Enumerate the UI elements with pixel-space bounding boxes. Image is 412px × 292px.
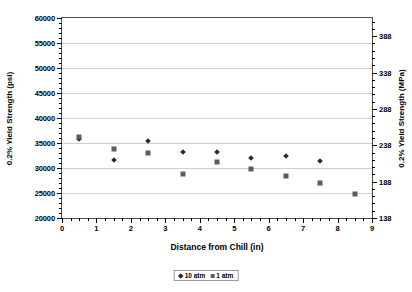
y-axis-minor-tick-left [59,23,62,24]
y-axis-tick-left [57,193,62,194]
x-axis-tick [303,218,304,223]
y-axis-minor-tick-right [372,65,375,66]
gridline [62,193,372,194]
y-axis-tick-right [372,73,377,74]
x-axis-minor-tick [208,218,209,221]
y-axis-minor-tick-right [372,138,375,139]
diamond-marker-icon [178,273,184,279]
y-axis-minor-tick-left [59,188,62,189]
gridline [62,118,372,119]
square-marker-icon [210,274,214,278]
chart-root: 0.2% Yield Strength (psi) 0.2% Yield Str… [0,0,412,292]
y-axis-minor-tick-left [59,88,62,89]
y-axis-minor-tick-right [372,131,375,132]
legend-label-1: 1 atm [216,272,233,279]
y-axis-minor-tick-right [372,153,375,154]
y-axis-tick-label-left: 60000 [35,14,55,23]
x-axis-tick-label: 7 [301,224,305,233]
y-axis-minor-tick-right [372,43,375,44]
x-axis-tick-label: 5 [232,224,236,233]
y-axis-minor-tick-left [59,48,62,49]
y-axis-minor-tick-right [372,211,375,212]
y-axis-tick-left [57,143,62,144]
y-axis-minor-tick-left [59,138,62,139]
y-axis-tick-label-left: 40000 [35,114,55,123]
x-axis-minor-tick [183,218,184,221]
y-axis-minor-tick-left [59,203,62,204]
data-point [249,155,255,161]
y-axis-tick-right [372,36,377,37]
legend-label-0: 10 atm [185,272,206,279]
x-axis-tick [200,218,201,223]
y-axis-minor-tick-right [372,102,375,103]
chart-legend: 10 atm 1 atm [174,270,239,281]
data-point [249,166,254,171]
gridline [62,43,372,44]
y-axis-tick-right [372,145,377,146]
y-axis-minor-tick-right [372,167,375,168]
y-axis-minor-tick-left [59,53,62,54]
x-axis-tick-label: 9 [370,224,374,233]
y-axis-minor-tick-left [59,63,62,64]
gridline [62,68,372,69]
gridline [62,168,372,169]
y-axis-minor-tick-right [372,189,375,190]
x-axis-minor-tick [140,218,141,221]
y-axis-minor-tick-left [59,183,62,184]
x-axis-minor-tick [329,218,330,221]
y-axis-tick-right [372,182,377,183]
x-axis-tick-label: 6 [267,224,271,233]
legend-item-0: 10 atm [179,272,206,279]
y-axis-tick-label-left: 35000 [35,139,55,148]
y-axis-tick-label-left: 45000 [35,89,55,98]
data-point [317,158,323,164]
y-axis-minor-tick-right [372,116,375,117]
x-axis-title: Distance from Chill (in) [61,242,373,252]
y-axis-title-right-label: 0.2% Yield Strength (MPa) [397,69,406,167]
x-axis-minor-tick [251,218,252,221]
y-axis-tick-right [372,109,377,110]
y-axis-minor-tick-left [59,78,62,79]
y-axis-minor-tick-left [59,148,62,149]
x-axis-minor-tick [114,218,115,221]
x-axis-minor-tick [88,218,89,221]
y-axis-minor-tick-left [59,153,62,154]
x-axis-minor-tick [226,218,227,221]
data-point [77,134,82,139]
y-axis-tick-left [57,168,62,169]
y-axis-tick-left [57,93,62,94]
x-axis-minor-tick [122,218,123,221]
y-axis-tick-label-left: 20000 [35,214,55,223]
y-axis-minor-tick-right [372,123,375,124]
data-point [318,181,323,186]
y-axis-tick-left [57,43,62,44]
y-axis-minor-tick-right [372,174,375,175]
data-point [215,160,220,165]
y-axis-minor-tick-right [372,22,375,23]
x-axis-minor-tick [320,218,321,221]
y-axis-tick-label-right: 388 [379,32,392,41]
x-axis-tick-label: 4 [198,224,202,233]
x-axis-tick [234,218,235,223]
x-axis-minor-tick [295,218,296,221]
x-axis-tick [338,218,339,223]
y-axis-minor-tick-left [59,208,62,209]
x-axis-minor-tick [277,218,278,221]
y-axis-tick-label-right: 288 [379,104,392,113]
y-axis-minor-tick-left [59,133,62,134]
x-axis-minor-tick [286,218,287,221]
x-axis-tick-label: 1 [94,224,98,233]
y-axis-minor-tick-left [59,103,62,104]
data-point [283,153,289,159]
x-axis-tick [96,218,97,223]
y-axis-title-left: 0.2% Yield Strength (psi) [3,17,17,219]
y-axis-minor-tick-right [372,87,375,88]
x-axis-tick [62,218,63,223]
y-axis-minor-tick-left [59,198,62,199]
x-axis-minor-tick [174,218,175,221]
data-point [180,149,186,155]
y-axis-title-right: 0.2% Yield Strength (MPa) [394,17,408,219]
y-axis-minor-tick-left [59,113,62,114]
x-axis-tick-label: 3 [163,224,167,233]
y-axis-minor-tick-left [59,128,62,129]
